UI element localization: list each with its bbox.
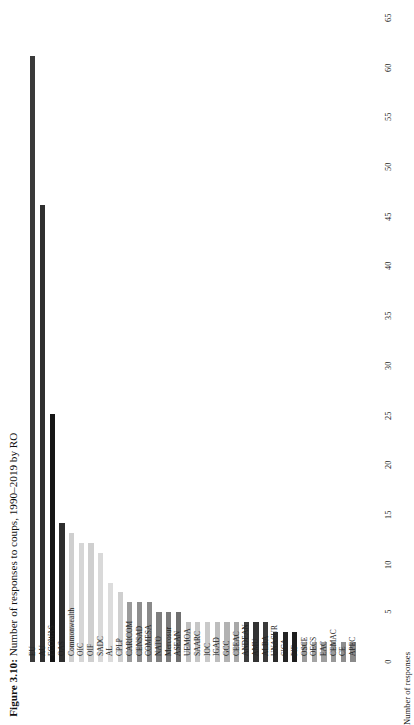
bar-item: IGAD bbox=[212, 16, 222, 662]
axis-tick-label: 30 bbox=[384, 361, 393, 369]
bar-category-label: ANDEAN bbox=[243, 624, 250, 656]
value-axis: 05101520253035404550556065 Number of res… bbox=[358, 14, 414, 662]
bar-category-label: EAC bbox=[320, 641, 327, 656]
bar-category-label: SADC bbox=[97, 636, 104, 656]
bar-category-label: COMESA bbox=[146, 625, 153, 656]
axis-tick-label: 40 bbox=[384, 262, 393, 270]
bar-item: SADC bbox=[96, 16, 106, 662]
bar-category-label: AL bbox=[107, 646, 114, 656]
bar-item: OECS bbox=[309, 16, 319, 662]
bar-category-label: GCC bbox=[223, 641, 230, 657]
bar-item: AL bbox=[106, 16, 116, 662]
figure-caption: Figure 3.10: Number of responses to coup… bbox=[7, 357, 20, 717]
bar-category-label: Commonwealth bbox=[68, 608, 75, 656]
bar-category-label: OIC bbox=[78, 643, 85, 656]
bar-item: ASEAN bbox=[174, 16, 184, 662]
axis-tick-label: 60 bbox=[384, 63, 393, 71]
bar-item: SAARC bbox=[193, 16, 203, 662]
axis-tick-label: 10 bbox=[384, 560, 393, 568]
bar-series: EUAUECOWASOASCommonwealthOICOIFSADCALCPL… bbox=[28, 16, 358, 662]
bar-category-label: NATO bbox=[155, 636, 162, 656]
bar-category-label: CARICOM bbox=[126, 621, 133, 656]
axis-tick-label: 65 bbox=[384, 14, 393, 22]
bar-category-label: ASEAN bbox=[175, 631, 182, 656]
bar-item: CEEAC bbox=[232, 16, 242, 662]
figure-caption-text: Number of responses to coups, 1990–2019 … bbox=[7, 433, 19, 660]
bar-category-label: CEMAC bbox=[330, 629, 337, 656]
bar-category-label: OSCE bbox=[301, 637, 308, 656]
bar-category-label: OECS bbox=[311, 637, 318, 656]
bar-item: OSCE bbox=[300, 16, 310, 662]
bar-category-label: CE bbox=[340, 646, 347, 656]
bar-item: PIF bbox=[290, 16, 300, 662]
bar-category-label: UNASUR bbox=[272, 625, 279, 656]
bar-category-label: SAARC bbox=[194, 631, 201, 656]
bar-item: OAS bbox=[57, 16, 67, 662]
axis-tick-label: 45 bbox=[384, 212, 393, 220]
bar-item: OIF bbox=[86, 16, 96, 662]
axis-tick-label: 15 bbox=[384, 510, 393, 518]
bar-category-label: Mercosur bbox=[165, 627, 172, 656]
axis-tick-label: 50 bbox=[384, 163, 393, 171]
axis-tick-label: 25 bbox=[384, 411, 393, 419]
plot-area: EUAUECOWASOASCommonwealthOICOIFSADCALCPL… bbox=[28, 14, 358, 662]
bar-item: CEMAC bbox=[329, 16, 339, 662]
bar-category-label: APEC bbox=[349, 637, 356, 656]
bar bbox=[40, 205, 45, 662]
bar bbox=[30, 56, 35, 662]
bar-category-label: IGAD bbox=[214, 637, 221, 656]
bar-category-label: ALBA bbox=[262, 635, 269, 656]
bar-item: CPLP bbox=[115, 16, 125, 662]
bar-item: CE bbox=[339, 16, 349, 662]
figure-caption-number: Figure 3.10: bbox=[7, 659, 19, 717]
bar-item: NATO bbox=[154, 16, 164, 662]
bar-item: GCC bbox=[222, 16, 232, 662]
bar-item: ALBA bbox=[261, 16, 271, 662]
bar-category-label: EU bbox=[29, 646, 36, 656]
bar-category-label: AMU bbox=[252, 638, 259, 656]
bar-item: ANDEAN bbox=[241, 16, 251, 662]
bar-item: Commonwealth bbox=[67, 16, 77, 662]
bar-item: AMU bbox=[251, 16, 261, 662]
bar-item: UNASUR bbox=[271, 16, 281, 662]
bar-item: APEC bbox=[348, 16, 358, 662]
bar-category-label: ECOWAS bbox=[49, 625, 56, 656]
bar-item: SICA bbox=[280, 16, 290, 662]
bar-item: OIC bbox=[77, 16, 87, 662]
bar-item: IOC bbox=[203, 16, 213, 662]
bar-item: CENSAD bbox=[135, 16, 145, 662]
axis-title: Number of responses bbox=[402, 652, 412, 725]
bar-item: Mercosur bbox=[164, 16, 174, 662]
bar-category-label: CENSAD bbox=[136, 626, 143, 656]
bar-item: UEMOA bbox=[183, 16, 193, 662]
bar-item: AU bbox=[38, 16, 48, 662]
axis-tick-label: 35 bbox=[384, 312, 393, 320]
bar-category-label: OAS bbox=[58, 641, 65, 656]
axis-tick-label: 5 bbox=[384, 610, 393, 614]
axis-tick-label: 20 bbox=[384, 461, 393, 469]
bar-category-label: UEMOA bbox=[184, 628, 191, 656]
bar-category-label: AU bbox=[39, 645, 46, 656]
axis-tick-label: 0 bbox=[384, 660, 393, 664]
bar-category-label: SICA bbox=[281, 639, 288, 656]
bar-item: COMESA bbox=[144, 16, 154, 662]
bar-category-label: CPLP bbox=[116, 638, 123, 656]
bar-category-label: PIF bbox=[291, 645, 298, 656]
bar-item: EU bbox=[28, 16, 38, 662]
bar-item: ECOWAS bbox=[47, 16, 57, 662]
bar-category-label: CEEAC bbox=[233, 631, 240, 656]
axis-tick-label: 55 bbox=[384, 113, 393, 121]
bar-item: CARICOM bbox=[125, 16, 135, 662]
bar-category-label: IOC bbox=[204, 643, 211, 656]
bar-category-label: OIF bbox=[87, 644, 94, 656]
bar-item: EAC bbox=[319, 16, 329, 662]
